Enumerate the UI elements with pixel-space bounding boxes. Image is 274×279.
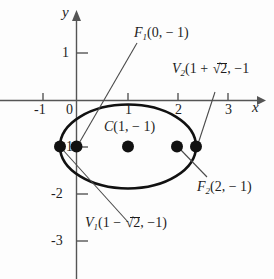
point-label-C-letter: C (104, 119, 113, 134)
point-label-V1-letter: V (85, 215, 94, 230)
point-dot-C (122, 141, 134, 153)
point-dot-F2 (171, 141, 183, 153)
x-tick-marks (43, 93, 228, 101)
y-tick-label--1: 1 (66, 140, 73, 154)
x-tick-label-0: 0 (66, 103, 73, 117)
point-label-F2-coords: (2, − 1) (210, 179, 252, 194)
x-tick-label-3: 3 (225, 103, 232, 117)
point-label-V2-open: (1 + (185, 61, 212, 76)
point-label-C: C(1, − 1) (104, 120, 155, 134)
x-tick-label-2: 2 (175, 103, 182, 117)
point-label-F2: F2(2, − 1) (197, 180, 252, 196)
sqrt-bar-V1 (130, 217, 141, 218)
point-label-V2: V2(1 + √2, −1 (172, 62, 249, 78)
sqrt-bar-V2 (217, 63, 228, 64)
leader-V1 (63, 150, 128, 222)
point-label-F1-coords: (0, − 1) (147, 25, 189, 40)
point-label-F2-letter: F (197, 179, 206, 194)
y-tick-label--2: -2 (51, 187, 63, 201)
x-axis-label: x (252, 100, 259, 115)
point-dots (54, 141, 202, 153)
point-label-V1-sqrt: √2 (125, 216, 141, 230)
point-label-V1: V1(1 − √2, −1) (85, 216, 167, 232)
y-tick-label--3: -3 (51, 234, 63, 248)
point-label-F1-letter: F (134, 25, 143, 40)
y-axis-label: y (62, 5, 69, 20)
point-label-C-coords: (1, − 1) (113, 119, 155, 134)
ellipse-graph-figure: x y -1 0 1 2 3 1 1 -2 -3 F1(0, − 1) V2(1… (0, 0, 274, 279)
point-label-V1-rest: , −1) (140, 215, 167, 230)
point-label-V2-sqrt: √2 (212, 62, 228, 76)
y-tick-label-1: 1 (62, 46, 69, 60)
x-tick-label--1: -1 (34, 103, 46, 117)
y-axis-arrow (72, 10, 81, 21)
point-label-V1-open: (1 − (98, 215, 125, 230)
point-label-F1: F1(0, − 1) (134, 26, 189, 42)
x-tick-label-1: 1 (125, 103, 132, 117)
point-dot-V2 (190, 141, 202, 153)
point-dot-V1 (54, 141, 66, 153)
point-label-V2-letter: V (172, 61, 181, 76)
point-label-V2-rest: , −1 (227, 61, 249, 76)
